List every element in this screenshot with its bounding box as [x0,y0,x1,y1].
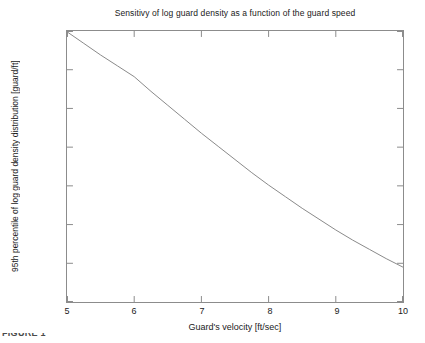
x-tick-label: 7 [199,306,204,316]
caption-fragment-text: FIGURE 1 [2,333,64,338]
y-axis-label: 95th percentile of log guard density dis… [8,30,22,303]
data-series-line [67,32,403,267]
chart-title: Sensitivy of log guard density as a func… [66,8,404,18]
x-axis-label: Guard's velocity [ft/sec] [66,322,404,332]
x-tick-label: 9 [334,306,339,316]
x-tick-label: 10 [398,306,408,316]
figure-container: Sensitivy of log guard density as a func… [0,0,425,343]
x-tick-label: 8 [267,306,272,316]
x-tick-label: 5 [64,306,69,316]
data-line-svg [67,31,403,302]
x-tick-label: 6 [131,306,136,316]
plot-area [66,30,404,303]
caption-fragment: FIGURE 1 [2,333,64,343]
